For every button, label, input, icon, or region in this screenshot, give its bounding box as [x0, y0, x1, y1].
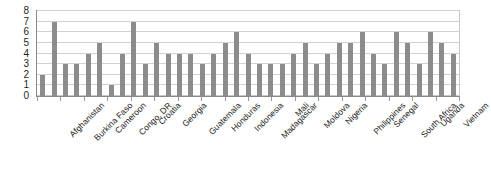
y-axis-tick-labels: 012345678 [0, 0, 33, 177]
bar [166, 54, 171, 97]
bar [177, 54, 182, 97]
bar [234, 32, 239, 96]
y-tick-label: 1 [23, 80, 29, 90]
y-tick-label: 8 [23, 6, 29, 16]
bar [325, 54, 330, 97]
y-tick-label: 0 [23, 91, 29, 101]
bar [52, 22, 57, 96]
bar [131, 22, 136, 96]
x-category-label: Georgia [181, 101, 209, 129]
bar [268, 64, 273, 96]
y-tick-label: 4 [23, 49, 29, 59]
bar [257, 64, 262, 96]
y-tick-label: 2 [23, 70, 29, 80]
bar [291, 54, 296, 97]
bar [188, 54, 193, 97]
bar [74, 64, 79, 96]
bar [120, 54, 125, 97]
bar [154, 43, 159, 96]
bar [143, 64, 148, 96]
y-tick-label: 6 [23, 27, 29, 37]
bar [348, 43, 353, 96]
bar [86, 54, 91, 97]
bar [109, 85, 114, 96]
x-axis-category-labels: AfghanistanBurkina FasoCameroonCongo, DR… [37, 101, 467, 177]
y-tick-label: 7 [23, 17, 29, 27]
y-tick-label: 3 [23, 59, 29, 69]
bar [303, 43, 308, 96]
bar [40, 75, 45, 96]
bar [382, 64, 387, 96]
bar [337, 43, 342, 96]
bar [280, 64, 285, 96]
bar [223, 43, 228, 96]
bar [417, 64, 422, 96]
x-category-label: Vietnam [462, 101, 490, 129]
bar [405, 43, 410, 96]
bar [394, 32, 399, 96]
bar [314, 64, 319, 96]
y-tick-label: 5 [23, 38, 29, 48]
bar [211, 54, 216, 97]
bar [63, 64, 68, 96]
bar [451, 54, 456, 97]
bar [97, 43, 102, 96]
bar [360, 32, 365, 96]
bars-layer [37, 11, 459, 96]
bar [246, 54, 251, 97]
bar [439, 43, 444, 96]
bar [428, 32, 433, 96]
bar [371, 54, 376, 97]
bar [200, 64, 205, 96]
